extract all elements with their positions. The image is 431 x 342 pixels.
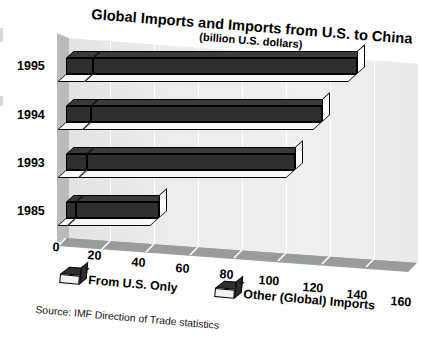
xtick-label-80: 80 <box>219 267 234 282</box>
scan-edge-artifact <box>0 28 3 42</box>
bar-1993-other-global <box>87 154 295 170</box>
xtick-label-100: 100 <box>258 273 280 288</box>
chart-figure: Global Imports and Imports from U.S. to … <box>0 0 431 342</box>
xtick-label-0: 0 <box>52 240 60 254</box>
xtick-label-40: 40 <box>131 255 146 270</box>
bar-1995-other-global <box>93 58 357 74</box>
bar-1985-other-global <box>76 202 159 218</box>
ytick-label-1994: 1994 <box>17 108 45 122</box>
xtick-label-20: 20 <box>87 248 102 263</box>
bar-1993-from-us <box>66 154 87 170</box>
bar-1985-from-us <box>66 202 76 218</box>
bar-1995-from-us <box>66 58 93 74</box>
ytick-label-1985: 1985 <box>17 204 45 218</box>
bar-1994-from-us <box>66 106 91 122</box>
legend-swatch-from-us-only <box>59 274 80 285</box>
ytick-label-1993: 1993 <box>17 156 45 170</box>
bar-1994-other-global <box>91 106 322 122</box>
ytick-label-1995: 1995 <box>17 59 45 73</box>
xtick-label-160: 160 <box>390 294 412 309</box>
scan-edge-artifact <box>0 96 3 106</box>
xtick-label-60: 60 <box>175 261 190 276</box>
legend-swatch-other-global-imports <box>214 288 235 299</box>
